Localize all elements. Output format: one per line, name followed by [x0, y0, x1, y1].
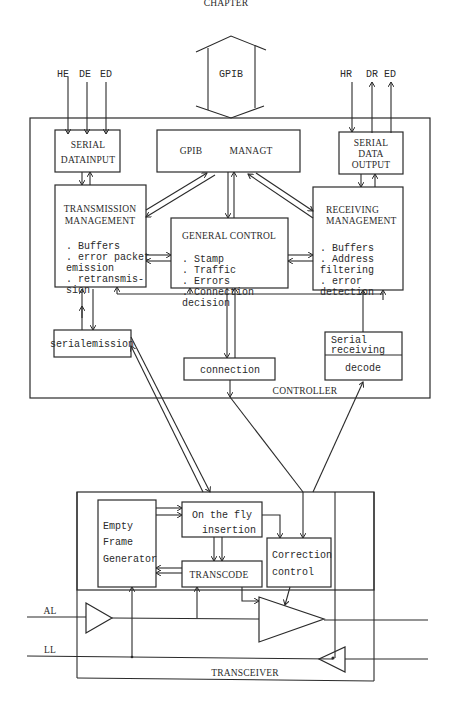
svg-text:. Buffers: . Buffers: [66, 241, 120, 252]
svg-text:receiving: receiving: [331, 345, 385, 356]
receiving-management-block: RECEIVING MANAGEMENT . Buffers . Address…: [313, 187, 403, 298]
al-line-label: AL: [43, 606, 56, 616]
controller-label: CONTROLLER: [273, 386, 338, 396]
svg-text:. error: . error: [320, 276, 362, 287]
svg-text:. Stamp: . Stamp: [182, 254, 224, 265]
svg-text:TRANSMISSION: TRANSMISSION: [64, 204, 137, 214]
ll-line-label: LL: [44, 645, 56, 655]
svg-text:control: control: [272, 567, 314, 578]
svg-text:Frame: Frame: [103, 537, 133, 548]
right-output-signals: HR DR ED: [340, 69, 396, 133]
block-diagram: CHAPTER GPIB HE DE ED HR DR ED CONTROLLE…: [0, 0, 453, 715]
svg-text:filtering: filtering: [320, 265, 374, 276]
svg-text:. Errors: . Errors: [182, 276, 230, 287]
svg-text:SERIAL: SERIAL: [354, 138, 388, 148]
svg-text:emission: emission: [66, 263, 114, 274]
svg-text:decode: decode: [345, 363, 381, 374]
serial-data-input-block: SERIAL DATAINPUT: [55, 130, 120, 172]
on-the-fly-insertion-block: On the fly insertion: [182, 502, 262, 537]
connection-block: connection: [184, 358, 275, 380]
transcode-block: TRANSCODE: [182, 561, 262, 587]
serial-receiving-block: Serial receiving decode: [325, 332, 402, 380]
svg-text:Correction: Correction: [272, 550, 332, 561]
svg-text:insertion: insertion: [202, 525, 256, 536]
svg-text:Generator: Generator: [103, 554, 157, 565]
left-input-signals: HE DE ED: [57, 69, 112, 134]
svg-text:. Address: . Address: [320, 254, 374, 265]
svg-text:On the fly: On the fly: [192, 510, 252, 521]
svg-text:DATAINPUT: DATAINPUT: [61, 155, 115, 165]
gpib-managt-block: GPIB MANAGT: [157, 130, 300, 172]
signal-ed-out-label: ED: [384, 69, 396, 80]
svg-text:. retransmis-: . retransmis-: [66, 274, 144, 285]
svg-text:RECEIVING: RECEIVING: [326, 205, 379, 215]
signal-he-label: HE: [57, 69, 69, 80]
serial-data-output-block: SERIAL DATA OUTPUT: [339, 132, 403, 174]
svg-text:. Traffic: . Traffic: [182, 265, 236, 276]
svg-text:. Connection: . Connection: [182, 287, 254, 298]
transmission-management-block: TRANSMISSION MANAGEMENT . Buffers . erro…: [55, 185, 150, 296]
svg-text:GENERAL CONTROL: GENERAL CONTROL: [182, 231, 276, 241]
svg-text:MANAGEMENT: MANAGEMENT: [65, 216, 136, 226]
transceiver-label: TRANSCEIVER: [211, 668, 279, 678]
svg-text:GPIB: GPIB: [180, 146, 202, 156]
page-header: CHAPTER: [204, 0, 249, 8]
svg-text:connection: connection: [200, 365, 260, 376]
svg-text:DATA: DATA: [358, 149, 383, 159]
svg-text:detection: detection: [320, 287, 374, 298]
correction-control-block: Correction control: [267, 538, 332, 587]
gpib-bus-label: GPIB: [219, 69, 243, 80]
gpib-bus-arrow: GPIB: [196, 36, 266, 118]
svg-text:. error packet: . error packet: [66, 252, 150, 263]
svg-text:decision: decision: [182, 298, 230, 309]
signal-hr-label: HR: [340, 69, 352, 80]
svg-text:Empty: Empty: [103, 521, 133, 532]
svg-text:MANAGEMENT: MANAGEMENT: [326, 216, 397, 226]
signal-ed-label: ED: [100, 69, 112, 80]
signal-de-label: DE: [79, 69, 91, 80]
svg-text:serialemission: serialemission: [50, 339, 134, 350]
serial-emission-block: serialemission: [50, 330, 134, 357]
svg-text:OUTPUT: OUTPUT: [352, 160, 391, 170]
empty-frame-generator-block: Empty Frame Generator: [98, 500, 157, 587]
input-buffer-amplifier: [86, 603, 112, 633]
line-driver-amplifier: [259, 597, 324, 642]
svg-text:MANAGT: MANAGT: [230, 146, 273, 156]
general-control-block: GENERAL CONTROL . Stamp . Traffic . Erro…: [171, 218, 288, 309]
svg-text:TRANSCODE: TRANSCODE: [190, 570, 249, 580]
signal-dr-label: DR: [366, 69, 378, 80]
svg-text:. Buffers: . Buffers: [320, 243, 374, 254]
svg-text:SERIAL: SERIAL: [71, 140, 105, 150]
svg-text:sion: sion: [66, 285, 90, 296]
